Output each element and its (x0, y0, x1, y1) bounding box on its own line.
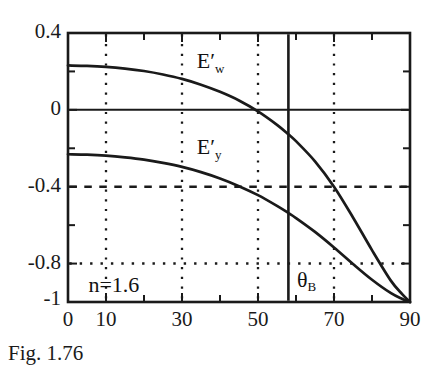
y-tick-label-4: -1 (44, 288, 62, 309)
series-label-ey: E′y (197, 134, 222, 163)
annotation-refractive-index-text: n=1.6 (88, 272, 139, 297)
y-tick-label-0: 0.4 (35, 21, 61, 42)
x-tick-label-3: 50 (218, 309, 298, 330)
y-tick-label-3: -0.8 (28, 252, 61, 273)
annotation-brewster-symbol: θ (297, 267, 308, 292)
x-tick-label-5: 90 (370, 309, 436, 330)
figure-caption: Fig. 1.76 (8, 341, 83, 366)
y-tick-label-1: 0 (51, 98, 62, 119)
series-label-ew: E′w (197, 48, 225, 77)
series-label-ey-subscript: y (215, 147, 222, 162)
series-label-ew-subscript: w (215, 60, 224, 75)
series-label-ew-base: E (197, 48, 210, 73)
x-tick-label-4: 70 (294, 309, 374, 330)
annotation-brewster-angle: θB (297, 267, 316, 295)
x-tick-label-1: 10 (66, 309, 146, 330)
figure-container: 0.4 0 -0.4 -0.8 -1 0 10 30 50 70 90 E′w … (0, 0, 436, 378)
series-label-ey-base: E (197, 134, 210, 159)
y-tick-label-2: -0.4 (28, 175, 61, 196)
plot-frame (68, 33, 410, 302)
annotation-refractive-index: n=1.6 (88, 272, 139, 298)
annotation-brewster-subscript: B (308, 279, 317, 294)
x-tick-label-2: 30 (142, 309, 222, 330)
